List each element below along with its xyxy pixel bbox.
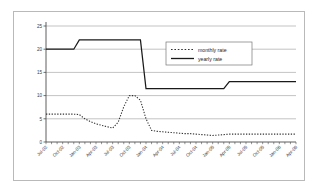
x-axis-tick-label: Jan-05 — [202, 144, 216, 158]
line-chart-plot: 0510152025 Jul-02Oct-02Jan-03Apr-03Jul-0… — [14, 12, 304, 180]
y-axis-tick-label: 5 — [39, 117, 42, 122]
chart-frame: 0510152025 Jul-02Oct-02Jan-03Apr-03Jul-0… — [13, 11, 305, 181]
y-axis-tick-label: 20 — [37, 47, 43, 52]
x-axis-tick-label: Jan-06 — [268, 144, 282, 158]
chart-figure: 0510152025 Jul-02Oct-02Jan-03Apr-03Jul-0… — [0, 0, 319, 194]
series-line-monthly-rate — [46, 96, 296, 136]
x-axis-tick-label: Oct-04 — [185, 144, 199, 158]
y-axis-tick-label: 25 — [37, 24, 43, 29]
x-axis-group: Jul-02Oct-02Jan-03Apr-03Jul-03Oct-03Jan-… — [36, 142, 299, 158]
x-axis-tick-label: Jan-04 — [135, 144, 149, 158]
x-axis-tick-label: Apr-04 — [152, 144, 166, 158]
x-axis-tick-label: Jul-05 — [236, 144, 249, 157]
legend-box — [166, 42, 252, 65]
x-axis-tick-label: Oct-02 — [52, 144, 66, 158]
x-axis-tick-label: Jul-03 — [103, 144, 116, 157]
y-axis-tick-label: 0 — [39, 140, 42, 145]
x-axis-tick-label: Jul-04 — [169, 144, 182, 157]
y-axis-tick-label: 15 — [37, 70, 43, 75]
y-axis-group: 0510152025 — [37, 22, 46, 145]
x-axis-tick-label: Jul-02 — [36, 144, 49, 157]
legend-label-monthly-rate: monthly rate — [198, 47, 227, 53]
y-axis-tick-label: 10 — [37, 93, 43, 98]
x-axis-tick-label: Oct-03 — [118, 144, 132, 158]
x-axis-tick-label: Jan-03 — [68, 144, 82, 158]
x-axis-tick-label: Apr-03 — [85, 144, 99, 158]
legend-label-yearly-rate: yearly rate — [198, 56, 222, 62]
x-axis-tick-label: Apr-06 — [285, 144, 299, 158]
x-axis-tick-label: Apr-05 — [218, 144, 232, 158]
x-axis-tick-label: Oct-05 — [252, 144, 266, 158]
chart-legend: monthly rateyearly rate — [166, 42, 252, 65]
